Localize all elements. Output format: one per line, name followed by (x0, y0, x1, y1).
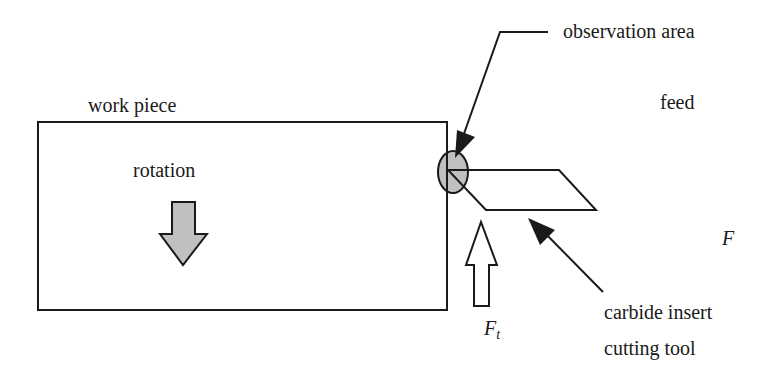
observation-area-label: observation area (563, 21, 695, 41)
observation-arrowhead-icon (455, 130, 475, 158)
tool-arrowhead-icon (528, 218, 555, 245)
tool-label-line1: carbide insert (604, 302, 712, 322)
cutting-tool-shape (448, 170, 596, 210)
thrust-force-main: F (484, 317, 496, 339)
force-f-label: F (722, 228, 734, 248)
thrust-force-sub: t (496, 327, 500, 342)
rotation-label: rotation (133, 160, 195, 180)
work-piece-rect (38, 122, 447, 310)
work-piece-label: work piece (88, 95, 176, 115)
tool-label-line2: cutting tool (604, 338, 696, 358)
thrust-force-label: Ft (484, 318, 500, 342)
rotation-arrow-icon (160, 202, 207, 265)
tool-leader-line (540, 228, 603, 292)
thrust-force-arrow-icon (466, 222, 497, 306)
feed-label: feed (660, 92, 694, 112)
observation-leader-line (460, 32, 548, 145)
